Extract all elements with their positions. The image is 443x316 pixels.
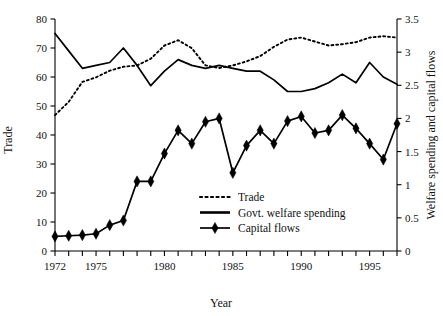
legend: TradeGovt. welfare spendingCapital flows [200,191,346,235]
data-point-marker [79,229,85,240]
data-point-marker [367,138,373,149]
series-govt-welfare-spending [55,34,397,92]
data-point-marker [107,220,113,231]
data-point-marker [326,125,332,136]
series-capital-flows [52,110,400,243]
y2-tick-label: 2 [405,112,411,124]
y-tick-label: 60 [36,71,48,83]
y-axis-title: Trade [1,126,15,154]
data-point-marker [52,231,58,242]
legend-item[interactable]: Govt. welfare spending [200,207,346,220]
data-point-marker [353,123,359,134]
y-tick-label: 50 [36,100,48,112]
line-chart: 0102030405060708000.511.522.533.51972197… [0,0,443,316]
y-tick-label: 10 [36,216,48,228]
axes [55,19,397,251]
x-tick-label: 1972 [44,260,66,272]
data-point-marker [212,222,218,233]
y2-tick-label: 0.5 [405,212,419,224]
data-point-marker [257,125,263,136]
y2-tick-label: 3.5 [405,13,419,25]
y-tick-label: 0 [42,245,48,257]
x-tick-label: 1980 [153,260,176,272]
series-line [55,34,397,92]
data-point-marker [66,230,72,241]
y2-tick-label: 1.5 [405,146,419,158]
x-tick-label: 1985 [222,260,245,272]
y2-tick-label: 0 [405,245,411,257]
x-tick-label: 1995 [359,260,382,272]
y-tick-label: 70 [36,42,48,54]
legend-item[interactable]: Capital flows [200,222,300,235]
data-point-marker [93,228,99,239]
legend-label: Capital flows [238,222,300,235]
y2-tick-label: 2.5 [405,79,419,91]
data-series [52,34,400,243]
x-tick-label: 1990 [290,260,313,272]
y2-axis-title: Welfare spending and capital flows [424,50,438,219]
y-tick-label: 30 [36,158,48,170]
data-point-marker [339,110,345,121]
axis-ticks [51,19,402,256]
chart-container: 0102030405060708000.511.522.533.51972197… [0,0,443,316]
legend-item[interactable]: Trade [200,191,264,203]
y-tick-label: 40 [36,129,48,141]
y-tick-label: 80 [36,13,48,25]
y2-tick-label: 1 [405,179,411,191]
series-line [55,115,397,236]
y-tick-label: 20 [36,187,48,199]
y2-tick-label: 3 [405,46,411,58]
legend-label: Govt. welfare spending [238,207,346,220]
x-axis-title: Year [210,296,232,310]
x-tick-label: 1975 [85,260,108,272]
data-point-marker [216,113,222,124]
legend-label: Trade [238,191,264,203]
